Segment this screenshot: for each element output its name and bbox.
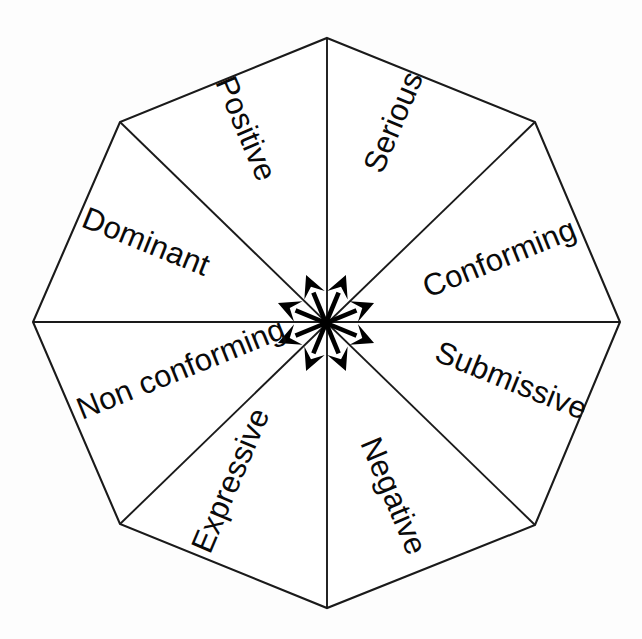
octagon-diagram-svg: Serious Conforming Submissive Negative E… — [0, 0, 642, 639]
octagon-diagram: Serious Conforming Submissive Negative E… — [0, 0, 642, 639]
